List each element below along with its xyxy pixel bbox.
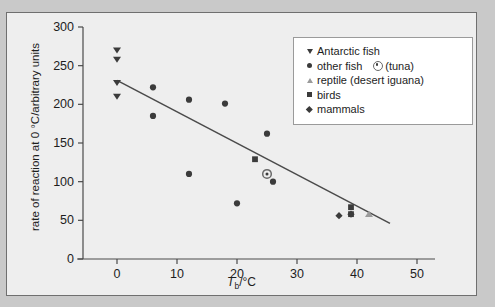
y-tick-label: 100	[53, 175, 74, 189]
legend-item-4[interactable]: mammals	[303, 102, 464, 117]
diamond-icon	[303, 107, 316, 112]
legend-item-3[interactable]: birds	[303, 88, 464, 103]
legend-item-label: other fish	[316, 60, 362, 72]
legend-item-extra-label: (tuna)	[384, 60, 414, 72]
data-point	[270, 179, 276, 185]
y-tick-label: 0	[67, 252, 74, 266]
data-point	[150, 113, 156, 119]
data-point	[348, 204, 354, 210]
data-point	[113, 80, 121, 86]
legend-item-2[interactable]: reptile (desert iguana)	[303, 73, 464, 88]
triangle-up-icon	[303, 78, 316, 83]
circle-icon	[303, 63, 316, 68]
y-tick-label: 200	[53, 97, 74, 111]
legend-item-1[interactable]: other fish(tuna)	[303, 59, 464, 74]
legend-item-0[interactable]: Antarctic fish	[303, 44, 464, 59]
data-point	[150, 84, 156, 90]
y-axis-label: rate of reaction at 0 °C/arbitrary units	[29, 32, 41, 242]
series-other-fish	[150, 84, 276, 206]
data-point	[186, 171, 192, 177]
x-axis-label-units: /°C	[239, 275, 256, 289]
y-tick-label: 300	[53, 20, 74, 34]
legend-item-label: birds	[316, 89, 341, 101]
triangle-down-icon	[303, 49, 316, 54]
legend-item-label: reptile (desert iguana)	[316, 74, 424, 86]
series-birds	[252, 156, 354, 217]
series-antarctic-fish	[113, 47, 121, 99]
y-tick-label: 250	[53, 59, 74, 73]
square-icon	[303, 92, 316, 97]
series-tuna	[263, 170, 272, 179]
data-point	[335, 212, 342, 219]
data-point	[222, 100, 228, 106]
y-tick-label: 50	[60, 213, 74, 227]
legend-item-label: Antarctic fish	[316, 45, 380, 57]
x-axis-label: Tb/°C	[7, 275, 476, 291]
data-point	[186, 97, 192, 103]
y-tick-label: 150	[53, 136, 74, 150]
data-point	[263, 170, 272, 179]
data-point	[252, 156, 258, 162]
data-point	[113, 47, 121, 53]
tuna-circle-icon	[372, 61, 384, 71]
legend-item-extra: (tuna)	[372, 60, 414, 72]
data-point	[264, 131, 270, 137]
data-point	[113, 57, 121, 63]
data-point	[113, 94, 121, 100]
legend-item-label: mammals	[316, 103, 365, 115]
chart-legend: Antarctic fishother fish(tuna)reptile (d…	[293, 37, 473, 125]
data-point	[234, 200, 240, 206]
figure-frame: 05010015020025030001020304050 rate of re…	[6, 12, 477, 296]
series-mammals	[335, 211, 354, 220]
